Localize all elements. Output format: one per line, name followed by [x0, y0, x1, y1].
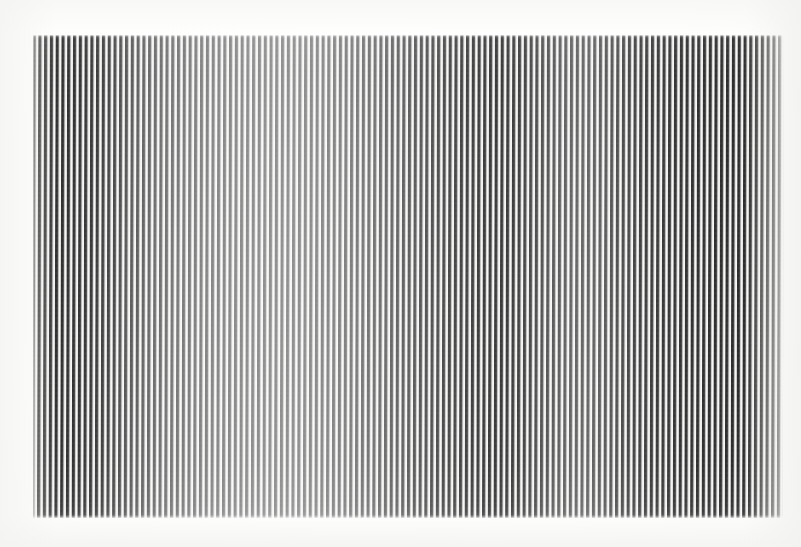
stripe-field: [33, 35, 784, 518]
vertical-stripe-pattern: [33, 35, 784, 518]
artwork-canvas: [0, 0, 801, 547]
stripe-perspective-wrapper: [33, 35, 784, 518]
